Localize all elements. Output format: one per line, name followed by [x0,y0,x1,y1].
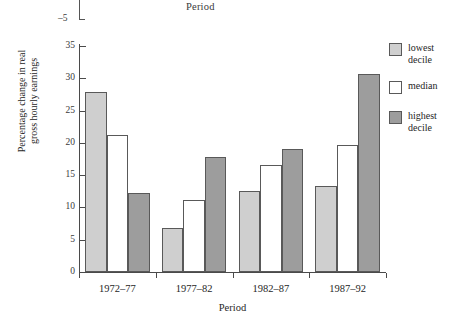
bar-lowest-1987-92 [315,186,337,272]
stray-period-title: Period [186,1,215,12]
bar-lowest-1972-77 [85,92,107,272]
y-tick-mark [80,272,86,273]
bar-highest-1987-92 [358,74,380,272]
y-tick-label: 5 [51,234,75,244]
legend-item-highest: highest decile [389,110,437,133]
bar-chart-figure: Period –5 05101520253035 1972–771977–821… [0,0,457,324]
legend-swatch-median [389,81,402,94]
x-tick-mark [156,273,157,278]
legend-item-lowest: lowest decile [389,42,434,65]
y-tick-label: 15 [51,169,75,179]
y-axis-title-text: Percentage change in real gross hourly e… [16,50,41,152]
legend-item-median: median [389,80,437,94]
y-tick-label: 20 [51,137,75,147]
legend-swatch-highest [389,111,402,124]
bar-median-1982-87 [260,165,282,272]
y-tick-mark [80,46,86,47]
y-tick-label: 30 [51,72,75,82]
legend-swatch-lowest [389,43,402,56]
bar-highest-1977-82 [205,157,227,272]
stray-axis-stub [79,0,80,20]
y-tick-label: 35 [51,40,75,50]
stray-tick-label: –5 [58,13,68,23]
bar-median-1987-92 [337,145,359,272]
x-tick-mark [386,273,387,278]
x-tick-mark [79,273,80,278]
x-tick-mark [233,273,234,278]
y-axis-title: Percentage change in real gross hourly e… [13,21,43,181]
legend-label-median: median [408,80,437,92]
y-tick-label: 0 [51,266,75,276]
x-tick-mark [309,273,310,278]
y-tick-label: 25 [51,105,75,115]
bar-highest-1972-77 [128,193,150,272]
y-tick-mark [80,78,86,79]
stray-tick-stub [79,19,85,20]
y-tick-label: 10 [51,201,75,211]
bar-highest-1982-87 [282,149,304,272]
bar-lowest-1982-87 [239,191,261,272]
bar-median-1977-82 [183,200,205,272]
legend-label-lowest: lowest decile [408,42,434,65]
legend-label-highest: highest decile [408,110,437,133]
x-tick-label: 1987–92 [303,283,393,294]
bar-lowest-1977-82 [162,228,184,272]
bar-median-1972-77 [107,135,129,272]
x-axis-title: Period [79,302,386,313]
